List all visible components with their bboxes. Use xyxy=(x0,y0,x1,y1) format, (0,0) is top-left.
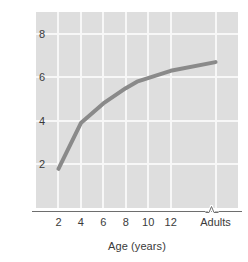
y-axis-tick-label: 8 xyxy=(39,28,65,40)
data-line-digit-span xyxy=(58,62,215,169)
x-axis-tick-label: 2 xyxy=(55,216,61,228)
x-axis-tick-label: 12 xyxy=(165,216,177,228)
x-axis-label: Age (years) xyxy=(36,240,238,252)
x-axis-tick-label: 10 xyxy=(142,216,154,228)
y-axis-label: Digit span xyxy=(6,0,20,8)
x-axis-tick-label: 6 xyxy=(100,216,106,228)
x-axis-tick-label: 8 xyxy=(123,216,129,228)
y-axis-tick-label: 6 xyxy=(39,71,65,83)
chart-figure: Digit span 246824681012Adults Age (years… xyxy=(0,0,248,262)
y-axis-label-container: Digit span xyxy=(6,8,20,208)
data-series-layer xyxy=(36,12,238,208)
x-axis-tick-label: Adults xyxy=(200,216,231,228)
x-axis-tick-label: 4 xyxy=(78,216,84,228)
y-axis-tick-label: 2 xyxy=(39,158,65,170)
y-axis-tick-label: 4 xyxy=(39,115,65,127)
axis-break-icon xyxy=(205,205,219,214)
